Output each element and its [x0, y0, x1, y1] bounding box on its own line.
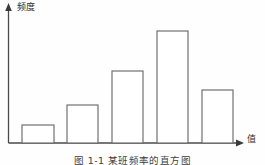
bar-4	[157, 31, 188, 143]
bar-1	[22, 125, 54, 143]
figure-caption: 图 1-1 某班频率的直方图	[0, 155, 265, 165]
histogram-chart	[0, 0, 265, 165]
bar-2	[67, 105, 98, 143]
histogram-figure: 频度 值 图 1-1 某班频率的直方图	[0, 0, 265, 165]
bar-3	[112, 71, 143, 143]
x-axis-label: 值	[247, 134, 256, 145]
bar-5	[202, 90, 233, 143]
y-axis-label: 频度	[17, 2, 36, 13]
arrow-up-icon	[5, 3, 12, 11]
arrow-right-icon	[236, 140, 244, 147]
